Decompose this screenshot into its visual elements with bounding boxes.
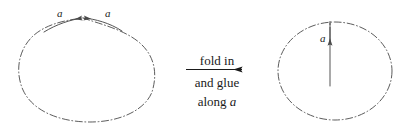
right-shape-group xyxy=(278,21,392,120)
left-edge-a-left-arc xyxy=(44,18,82,32)
right-ellipse-dashdot xyxy=(278,22,392,120)
caption-line-along-a: along a xyxy=(186,95,248,108)
caption-line-and-glue: and glue xyxy=(186,76,248,89)
caption-line-fold-in: fold in xyxy=(186,54,248,67)
fold-and-glue-figure: a a fold in and glue along a a xyxy=(0,0,405,130)
left-edge-label-a-left: a xyxy=(57,8,63,19)
caption-along-italic-a: a xyxy=(230,94,237,109)
left-shape-group xyxy=(19,18,155,122)
caption-along-prefix: along xyxy=(198,94,230,109)
right-slit-label-a: a xyxy=(320,33,326,44)
left-edge-label-a-right: a xyxy=(105,8,111,19)
left-curve-dashdot xyxy=(19,18,155,122)
